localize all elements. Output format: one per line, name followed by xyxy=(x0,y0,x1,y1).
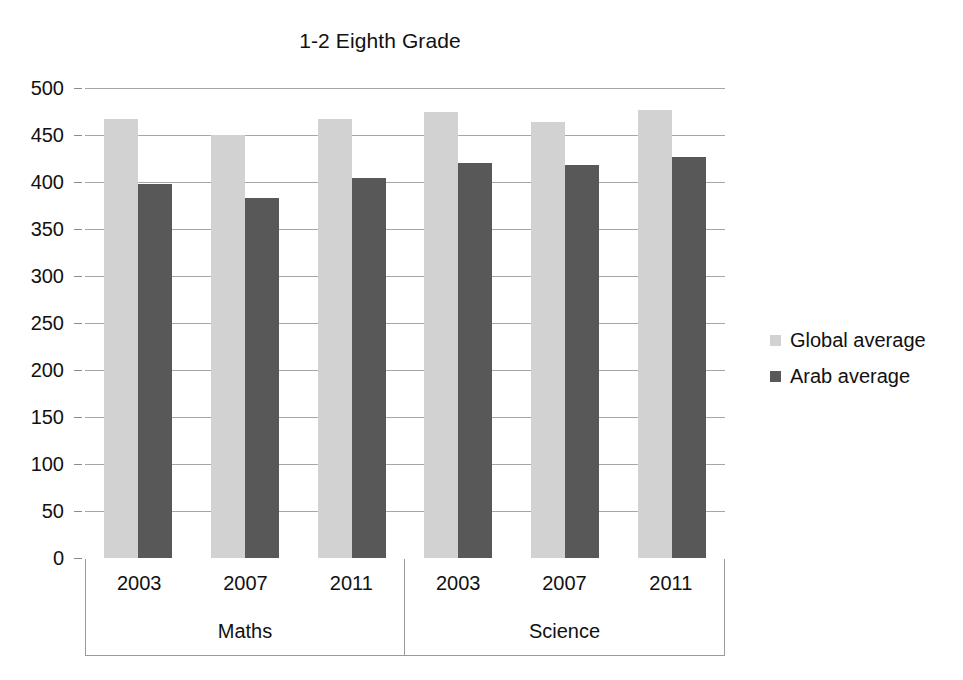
category-year-label: 2007 xyxy=(192,559,298,607)
y-axis-tick-mark xyxy=(74,370,82,371)
category-year-label: 2007 xyxy=(511,559,617,607)
y-axis-tick-label: 300 xyxy=(31,266,64,286)
y-axis-tick-label: 50 xyxy=(42,501,64,521)
bar-arab-average xyxy=(352,178,386,558)
y-axis-tick-label: 250 xyxy=(31,313,64,333)
legend-swatch-icon xyxy=(770,335,781,346)
chart-title: 1-2 Eighth Grade xyxy=(0,29,760,53)
category-group-label: Science xyxy=(405,607,724,655)
bar-global-average xyxy=(424,112,458,559)
y-axis-tick-mark xyxy=(74,464,82,465)
legend-label: Arab average xyxy=(790,365,910,388)
bar-global-average xyxy=(531,122,565,558)
y-axis-tick-label: 0 xyxy=(53,548,64,568)
bar-arab-average xyxy=(672,157,706,558)
legend-swatch-icon xyxy=(770,371,781,382)
bar-global-average xyxy=(318,119,352,558)
bar-arab-average xyxy=(565,165,599,558)
category-group-label: Maths xyxy=(86,607,405,655)
bar-global-average xyxy=(211,135,245,558)
y-axis-labels: 500450400350300250200150100500 xyxy=(0,88,64,558)
category-row-years: 200320072011200320072011 xyxy=(86,559,724,607)
y-axis-tick-mark xyxy=(74,417,82,418)
plot-area xyxy=(85,88,725,558)
y-axis-tick-mark xyxy=(74,511,82,512)
y-axis-tick-label: 150 xyxy=(31,407,64,427)
y-axis-tick-label: 450 xyxy=(31,125,64,145)
legend-item[interactable]: Global average xyxy=(770,322,960,358)
bar-global-average xyxy=(104,119,138,558)
y-axis-tick-mark xyxy=(74,276,82,277)
category-year-label: 2003 xyxy=(86,559,192,607)
y-axis-tick-mark xyxy=(74,558,82,559)
bars-layer xyxy=(85,88,725,558)
bar-arab-average xyxy=(138,184,172,558)
chart-legend: Global averageArab average xyxy=(770,322,960,394)
y-axis-tick-mark xyxy=(74,135,82,136)
y-axis-tick-mark xyxy=(74,182,82,183)
bar-chart: 1-2 Eighth Grade 50045040035030025020015… xyxy=(0,0,963,680)
bar-global-average xyxy=(638,110,672,558)
category-row-groups: MathsScience xyxy=(86,607,724,655)
y-axis-tick-mark xyxy=(74,229,82,230)
category-year-label: 2003 xyxy=(405,559,511,607)
category-label-table: 200320072011200320072011 MathsScience xyxy=(85,559,725,656)
y-axis-tick-label: 400 xyxy=(31,172,64,192)
y-axis-tick-label: 200 xyxy=(31,360,64,380)
legend-label: Global average xyxy=(790,329,926,352)
category-year-label: 2011 xyxy=(618,559,724,607)
legend-item[interactable]: Arab average xyxy=(770,358,960,394)
bar-arab-average xyxy=(245,198,279,558)
y-axis-tick-marks xyxy=(74,88,85,558)
y-axis-tick-label: 100 xyxy=(31,454,64,474)
y-axis-tick-label: 350 xyxy=(31,219,64,239)
y-axis-tick-label: 500 xyxy=(31,78,64,98)
y-axis-tick-mark xyxy=(74,88,82,89)
y-axis-tick-mark xyxy=(74,323,82,324)
bar-arab-average xyxy=(458,163,492,558)
category-year-label: 2011 xyxy=(299,559,405,607)
